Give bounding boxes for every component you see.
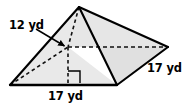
height-label: 12 yd	[9, 19, 44, 32]
slant-edge-label: 17 yd	[147, 62, 182, 75]
pyramid-drawing	[0, 0, 183, 107]
pyramid-figure: 12 yd 17 yd 17 yd	[0, 0, 183, 107]
base-edge-label: 17 yd	[48, 90, 83, 103]
